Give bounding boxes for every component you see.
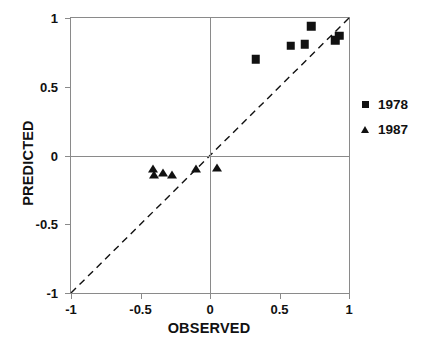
x-tick <box>280 293 281 299</box>
x-axis-label: OBSERVED <box>70 320 348 336</box>
data-point-1987 <box>167 170 177 178</box>
y-tick <box>65 18 71 19</box>
x-tick <box>141 293 142 299</box>
y-tick <box>65 156 71 157</box>
x-tick <box>210 293 211 299</box>
data-point-1987 <box>191 165 201 173</box>
x-tick <box>71 293 72 299</box>
y-axis-label: PREDICTED <box>20 53 36 273</box>
y-tick <box>65 87 71 88</box>
plot-inner <box>71 18 349 293</box>
x-tick-label: 1 <box>345 302 352 317</box>
data-point-1987 <box>212 163 222 171</box>
legend: 19781987 <box>358 92 426 142</box>
data-point-1978 <box>300 40 309 49</box>
triangle-marker-icon <box>358 126 372 133</box>
data-point-1978 <box>307 22 316 31</box>
x-tick-label: 0 <box>206 302 213 317</box>
x-tick-label: -0.5 <box>129 302 151 317</box>
data-point-1978 <box>335 32 344 41</box>
y-tick-label: 0 <box>51 148 58 163</box>
data-point-1987 <box>158 169 168 177</box>
x-tick-label: -1 <box>65 302 77 317</box>
y-tick-label: 0.5 <box>40 79 58 94</box>
square-glyph <box>362 101 369 108</box>
plot-area: -1-0.500.51-1-0.500.51 <box>70 17 350 294</box>
legend-item-1978: 1978 <box>358 92 426 117</box>
legend-label: 1978 <box>378 97 408 112</box>
zero-line-vertical <box>210 18 211 293</box>
x-tick <box>349 293 350 299</box>
y-tick-label: 1 <box>51 11 58 26</box>
x-tick-label: 0.5 <box>270 302 288 317</box>
y-tick-label: -1 <box>46 286 58 301</box>
square-marker-icon <box>358 101 372 108</box>
y-tick-label: -0.5 <box>36 217 58 232</box>
data-point-1978 <box>252 55 261 64</box>
scatter-plot-figure: PREDICTED OBSERVED -1-0.500.51-1-0.500.5… <box>0 0 426 346</box>
legend-item-1987: 1987 <box>358 117 426 142</box>
y-tick <box>65 293 71 294</box>
triangle-glyph <box>361 126 369 133</box>
legend-label: 1987 <box>378 122 408 137</box>
data-point-1978 <box>286 41 295 50</box>
y-tick <box>65 224 71 225</box>
